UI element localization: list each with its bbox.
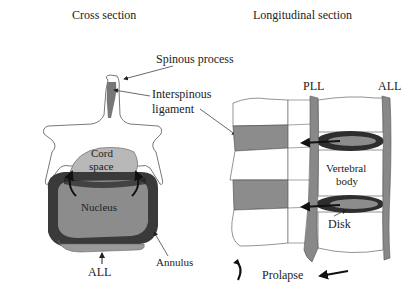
prolapse-legend-straight-arrow [320, 271, 348, 276]
all-ligament-long-shape [382, 96, 391, 260]
spinous-process-pointer [124, 66, 173, 79]
interspinous-long-pointer [200, 109, 236, 135]
interspinous-ligament-label-line2: ligament [152, 102, 195, 116]
longitudinal-section-title: Longitudinal section [253, 8, 352, 22]
disk-label: Disk [328, 217, 351, 231]
vertebral-body-label-line2: body [336, 175, 359, 187]
spinous-block-1 [233, 98, 288, 126]
pll-label: PLL [303, 79, 324, 93]
vertebral-body-1 [318, 97, 383, 132]
spinous-block-3 [232, 208, 288, 246]
prolapse-legend-curved-arrowhead [233, 259, 240, 265]
longitudinal-vertebrae [230, 96, 391, 262]
spine-diagram: Cross section Longitudinal section Spino… [0, 0, 412, 290]
nucleus-label: Nucleus [81, 201, 117, 213]
cord-space-label-line2: space [89, 160, 114, 172]
interspinous-ligament-label-line1: Interspinous [152, 87, 212, 101]
vertebral-body-label-line1: Vertebral [326, 162, 366, 174]
all-cross-label: ALL [88, 265, 111, 279]
lamina-2 [288, 147, 312, 180]
all-long-label: ALL [378, 79, 401, 93]
annulus-pointer [154, 232, 168, 256]
cross-section-title: Cross section [72, 8, 136, 22]
cord-space-label-line1: Cord [91, 147, 114, 159]
annulus-label: Annulus [156, 256, 193, 268]
disk-lower-nucleus [330, 199, 378, 209]
spinous-block-2 [230, 148, 288, 180]
interspinous-block-2 [233, 180, 288, 210]
spinous-process-label: Spinous process [156, 52, 234, 66]
interspinous-block-1 [233, 125, 288, 151]
lamina-1 [288, 100, 312, 125]
diagram-canvas: Cross section Longitudinal section Spino… [0, 0, 412, 290]
prolapse-legend-label: Prolapse [262, 268, 303, 282]
